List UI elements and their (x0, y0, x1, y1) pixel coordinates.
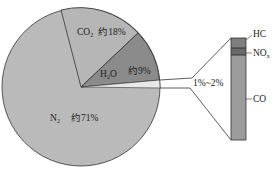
bar-segment-hc (231, 38, 246, 48)
connector-line-upper-a (160, 78, 192, 80)
label-nox: NOx (253, 48, 270, 59)
label-hc: HC (253, 29, 266, 39)
label-co: CO (253, 94, 266, 104)
label-pollutant-range: 1%~2% (193, 78, 224, 88)
bar-segment-co (231, 55, 246, 140)
label-h2o-value: 约9% (128, 65, 151, 76)
bar-segment-nox (231, 48, 246, 55)
label-n2-value: 约71% (71, 112, 99, 123)
connector-line-upper-b (192, 38, 231, 78)
connector-line-lower-b (190, 88, 231, 140)
exhaust-composition-chart: CO2约18% H2O 约9% N2 约71% 1%~2% HC NOx CO (0, 0, 273, 173)
label-co2: CO2约18% (77, 26, 126, 38)
